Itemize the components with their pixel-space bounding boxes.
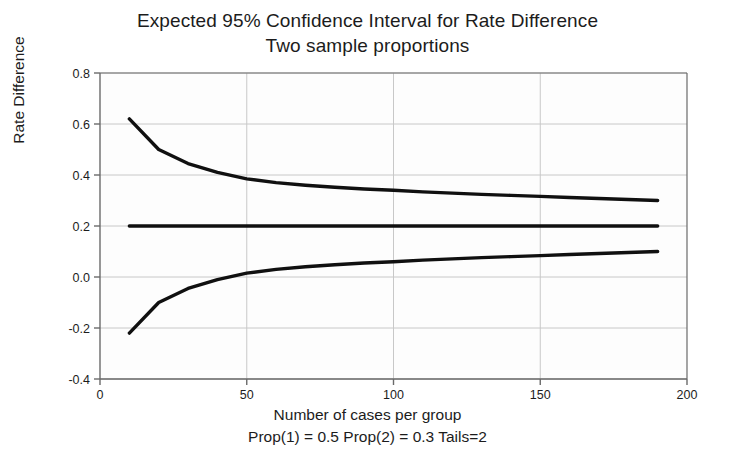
y-axis-tick-label: -0.2 [68,322,90,336]
y-axis-tick-label: 0.2 [73,220,90,234]
x-axis-label: Number of cases per group [0,404,735,426]
x-axis-tick-label: 0 [97,388,104,402]
x-axis-tick-label: 100 [383,388,404,402]
y-axis-tick-label: 0.6 [73,118,90,132]
x-axis-tick-label: 50 [240,388,254,402]
chart-parameters-caption: Prop(1) = 0.5 Prop(2) = 0.3 Tails=2 [0,426,735,448]
chart-caption-block: Number of cases per group Prop(1) = 0.5 … [0,404,735,448]
plot-area: -0.4-0.20.00.20.40.60.8050100150200 [0,0,735,466]
x-axis-tick-label: 200 [677,388,698,402]
y-axis-tick-label: 0.8 [73,67,90,81]
y-axis-tick-label: 0.4 [73,169,90,183]
x-axis-tick-label: 150 [530,388,551,402]
y-axis-tick-label: 0.0 [73,271,90,285]
y-axis-tick-label: -0.4 [68,373,90,387]
chart-figure: Expected 95% Confidence Interval for Rat… [0,0,735,466]
